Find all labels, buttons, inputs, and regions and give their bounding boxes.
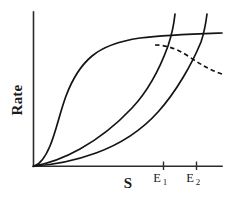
enzyme-kinetics-figure: Rate S E 1 E 2 [0, 0, 233, 198]
x-tick-label-e1-letter: E [153, 171, 161, 185]
x-tick-label-e2-letter: E [186, 171, 194, 185]
curve-right-rising [34, 14, 207, 166]
y-axis-label: Rate [9, 84, 25, 115]
x-tick-label-e2-subscript: 2 [196, 177, 201, 187]
x-tick-label-e2: E 2 [186, 171, 200, 187]
rate-vs-substrate-plot: Rate S E 1 E 2 [0, 0, 233, 198]
x-tick-label-e1-subscript: 1 [163, 177, 168, 187]
x-axis-label: S [124, 175, 132, 191]
x-tick-label-e1: E 1 [153, 171, 167, 187]
curve-sigmoidal-saturating [34, 33, 222, 166]
